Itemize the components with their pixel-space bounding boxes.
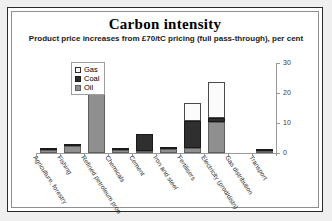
x-axis-label-chemicals: Chemicals [104,154,126,183]
y-axis-tick [276,123,280,124]
y-axis-tick [276,93,280,94]
legend-item-coal: Coal [75,74,99,83]
y-axis-tick-label: 20 [283,89,291,96]
bar-segment-oil [112,150,129,153]
bar-iron-and-steel [160,147,177,153]
legend-label-coal: Coal [84,74,99,83]
legend-swatch-coal-icon [75,76,81,82]
bar-fertilisers [184,103,201,153]
x-axis-label-cement: Cement [128,154,146,177]
chart-title: Carbon intensity [8,16,322,33]
y-axis-tick-label: 30 [283,59,291,66]
bar-transport [256,149,273,153]
x-axis-label-iron-and-steel: Iron and steel [152,154,179,191]
bar-segment-coal [136,134,153,151]
bar-segment-coal [184,121,201,148]
chart-legend: Gas Coal Oil [71,62,105,95]
bar-electricity-prod-distn [208,82,225,153]
legend-item-gas: Gas [75,65,99,74]
legend-swatch-gas-icon [75,67,81,73]
bar-segment-gas [184,103,201,120]
y-axis-tick-label: 10 [283,119,291,126]
y-axis-line [276,63,277,153]
bar-segment-oil [136,151,153,153]
bar-segment-oil [160,149,177,153]
x-axis-label-fertilisers: Fertilisers [176,154,197,181]
bar-segment-gas [208,82,225,118]
bar-segment-oil [256,151,273,153]
bar-cement [136,134,153,153]
bar-segment-oil [64,146,81,153]
x-axis-label-transport: Transport [248,154,269,181]
bar-segment-oil [40,150,57,153]
bar-segment-oil [184,148,201,153]
slide-frame: Carbon intensity Product price increases… [7,7,323,212]
legend-item-oil: Oil [75,83,99,92]
bar-fishing [64,144,81,153]
bar-chemicals [112,148,129,153]
x-axis-label-fishing: Fishing [56,154,73,175]
x-axis-category-labels: Agriculture, forestryFishingRefined petr… [36,154,286,216]
slide-page: Carbon intensity Product price increases… [0,0,332,221]
bar-segment-oil [208,122,225,153]
legend-label-gas: Gas [84,65,98,74]
chart-subtitle: Product price increases from £70/tC pric… [26,34,306,44]
bar-agriculture-forestry [40,148,57,153]
bar-refined-petroleum-prod [88,87,105,154]
y-axis-tick [276,63,280,64]
legend-swatch-oil-icon [75,85,81,91]
bar-segment-oil [88,89,105,154]
legend-label-oil: Oil [84,83,93,92]
